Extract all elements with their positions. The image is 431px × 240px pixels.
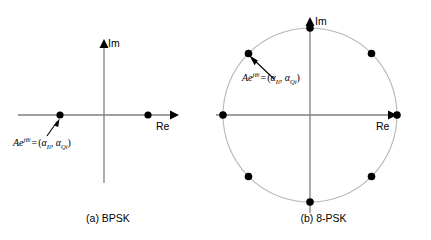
eight-psk-diagram	[216, 0, 431, 240]
constellation-point	[219, 111, 227, 119]
bpsk-panel: Re Im Aejθi=(αIi, αQi) (a) BPSK	[0, 0, 216, 240]
constellation-point	[368, 173, 376, 181]
annotation-close-paren: )	[67, 137, 70, 148]
constellation-point	[245, 173, 253, 181]
annotation-equals: =	[30, 137, 38, 148]
real-axis-arrowhead	[170, 111, 179, 120]
constellation-point	[306, 24, 314, 32]
constellation-point	[368, 50, 376, 58]
constellation-point	[56, 111, 63, 118]
annotation-comma: ,	[280, 72, 283, 83]
imag-axis-label: Im	[108, 38, 120, 49]
annotation-arrowhead	[249, 55, 258, 65]
constellation-point-annotation: Aejθi=(αIi, αQi)	[13, 138, 71, 148]
annotation-close-paren: )	[296, 72, 299, 83]
real-axis-label: Re	[156, 121, 169, 132]
annotation-leader-line	[47, 121, 58, 136]
constellation-point	[144, 111, 151, 118]
constellation-point-annotation: Aejθi=(αIi, αQi)	[242, 73, 300, 83]
annotation-arrowhead	[54, 118, 59, 127]
constellation-figure: Re Im Aejθi=(αIi, αQi) (a) BPSK	[0, 0, 431, 240]
constellation-point	[393, 111, 401, 119]
eight-psk-panel: Re Im Aejθi=(αIi, αQi) (b) 8-PSK	[216, 0, 431, 240]
bpsk-diagram	[0, 0, 216, 240]
panel-caption: (a) BPSK	[0, 213, 216, 224]
annotation-comma: ,	[51, 137, 54, 148]
constellation-point	[306, 198, 314, 206]
imag-axis-label: Im	[315, 16, 327, 27]
annotation-equals: =	[259, 72, 267, 83]
constellation-point	[245, 50, 253, 58]
real-axis-label: Re	[376, 121, 389, 132]
panel-caption: (b) 8-PSK	[216, 213, 431, 224]
